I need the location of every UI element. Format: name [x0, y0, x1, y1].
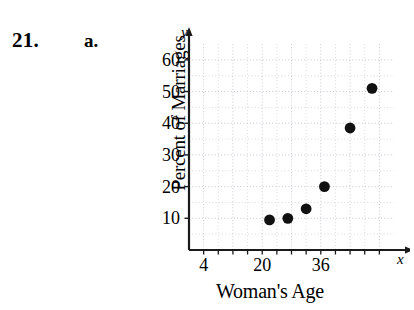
- x-axis-tick-label: 36: [304, 256, 338, 274]
- x-axis-tick-label: 20: [245, 256, 279, 274]
- data-point: [282, 213, 293, 224]
- x-axis-tick-label: 4: [187, 256, 221, 274]
- y-axis-arrow: [185, 27, 192, 36]
- y-axis-tick-label: 10: [146, 209, 180, 227]
- data-point: [264, 214, 275, 225]
- problem-number: 21.: [12, 28, 39, 53]
- figure-page: 21. a. Percent of Marriages Woman's Age …: [0, 0, 414, 310]
- y-axis-tick-label: 30: [146, 146, 180, 164]
- y-axis-tick-label: 20: [146, 178, 180, 196]
- x-axis-arrow: [405, 246, 410, 253]
- problem-part-label: a.: [84, 30, 98, 52]
- y-axis-tick-label: 40: [146, 114, 180, 132]
- y-axis-tick-label: 50: [146, 83, 180, 101]
- scatter-plot-figure: Percent of Marriages Woman's Age y x 102…: [132, 18, 410, 303]
- data-point: [319, 181, 330, 192]
- data-point: [367, 83, 378, 94]
- data-point: [345, 123, 356, 134]
- y-axis-tick-label: 60: [146, 51, 180, 69]
- data-point: [301, 203, 312, 214]
